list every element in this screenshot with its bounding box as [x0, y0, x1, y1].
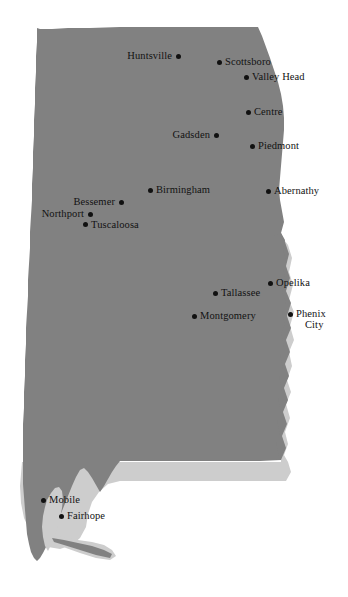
- city-dot: [266, 189, 271, 194]
- city-label: Scottsboro: [225, 56, 271, 68]
- city-label: Northport: [42, 208, 84, 220]
- city-label: Valley Head: [252, 71, 305, 83]
- city-label: Centre: [254, 106, 283, 118]
- city-label: Gadsden: [173, 129, 210, 141]
- city-label-line1: Phenix: [296, 308, 326, 319]
- city-label: Montgomery: [200, 310, 256, 322]
- city-dot: [250, 144, 255, 149]
- city-dot: [148, 188, 153, 193]
- city-label: Tallassee: [221, 287, 260, 299]
- city-dot: [83, 222, 88, 227]
- city-label: PhenixCity: [296, 308, 342, 331]
- city-dot: [88, 212, 93, 217]
- city-dot: [59, 514, 64, 519]
- city-dot: [244, 75, 249, 80]
- city-label: Fairhope: [67, 510, 105, 522]
- city-label: Birmingham: [156, 184, 210, 196]
- city-dot: [176, 54, 181, 59]
- city-label: Abernathy: [274, 185, 319, 197]
- city-label: Huntsville: [127, 50, 172, 62]
- city-dot: [41, 498, 46, 503]
- city-dot: [246, 110, 251, 115]
- city-label-line2: City: [305, 319, 342, 331]
- map-canvas: Huntsville Scottsboro Valley Head Centre…: [0, 0, 348, 597]
- city-dot: [213, 291, 218, 296]
- city-dot: [217, 60, 222, 65]
- city-dot: [214, 133, 219, 138]
- city-label: Mobile: [49, 494, 80, 506]
- city-dot: [119, 200, 124, 205]
- city-dot: [268, 281, 273, 286]
- city-label: Opelika: [276, 277, 310, 289]
- city-label: Tuscaloosa: [91, 219, 139, 231]
- city-dot: [288, 312, 293, 317]
- state-outline-svg: [0, 0, 348, 597]
- city-label: Piedmont: [258, 140, 299, 152]
- city-label: Bessemer: [73, 196, 115, 208]
- city-dot: [192, 314, 197, 319]
- state-corner-notch: [28, 28, 37, 44]
